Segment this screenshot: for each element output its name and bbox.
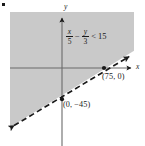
x-axis-label: x xyxy=(136,63,139,71)
numerator-x: x xyxy=(67,28,72,36)
fraction-y-over-3: y 3 xyxy=(82,28,89,45)
point-x-intercept xyxy=(102,66,106,70)
point-label-x-intercept: (75, 0) xyxy=(102,73,125,81)
y-axis-label: y xyxy=(64,3,67,11)
inequality-expression: x 5 − y 3 < 15 xyxy=(66,28,107,45)
denominator-3: 3 xyxy=(82,37,88,45)
point-label-y-intercept: (0, −45) xyxy=(63,101,90,109)
minus-operator: − xyxy=(75,32,81,41)
numerator-y: y xyxy=(83,28,88,36)
inequality-graph-figure: y x (75, 0) (0, −45) x 5 − y 3 < 15 xyxy=(0,0,145,146)
fraction-x-over-5: x 5 xyxy=(66,28,73,45)
right-hand-side: 15 xyxy=(98,32,107,41)
less-than-relation: < xyxy=(90,32,96,41)
denominator-5: 5 xyxy=(67,37,73,45)
